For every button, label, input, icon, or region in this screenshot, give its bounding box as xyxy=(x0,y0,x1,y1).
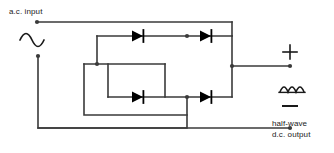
input-terminal-top xyxy=(35,20,39,24)
diode-top-left xyxy=(132,30,143,42)
circuit-diagram-page: a.c. input half-wave d.c. output xyxy=(0,0,334,153)
polarity-plus-icon xyxy=(283,45,297,59)
diode-bottom-right xyxy=(200,91,211,103)
junction-output-bus xyxy=(230,64,234,68)
diode-top-right xyxy=(200,30,211,42)
dc-output-label-line2: d.c. output xyxy=(272,129,310,140)
diode-bottom-left xyxy=(132,91,143,103)
output-terminal-positive xyxy=(288,64,292,68)
dc-output-label: half-wave d.c. output xyxy=(272,118,310,140)
junction-left-rail xyxy=(95,62,99,66)
input-terminal-bottom xyxy=(36,54,40,58)
ac-sine-wave-icon xyxy=(20,34,44,47)
rectified-wave-icon xyxy=(279,87,305,92)
ac-input-label: a.c. input xyxy=(9,7,42,16)
junction-bottom-rail xyxy=(185,95,189,99)
dc-output-label-line1: half-wave xyxy=(272,118,310,129)
wire-bridge-inner-left xyxy=(84,64,187,115)
junction-top-rail xyxy=(185,34,189,38)
